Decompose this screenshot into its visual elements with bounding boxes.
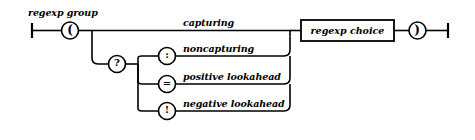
equals-icon: = [157,78,177,88]
question-mark-icon: ? [107,58,127,68]
track-start-icon [32,23,62,38]
exclamation-icon: ! [157,105,177,115]
branch-label-positive-lookahead: positive lookahead [183,72,281,82]
branch-label-noncapturing: noncapturing [183,44,254,54]
branch-label-negative-lookahead: negative lookahead [183,99,285,109]
railroad-track-graphic [0,0,475,140]
track-to-colon [138,56,158,58]
nonterminal-label-regexp-choice: regexp choice [301,26,394,36]
railroad-diagram: regexp group [0,0,475,140]
close-paren-icon: ) [407,24,427,36]
colon-icon: : [157,50,177,60]
branch-label-capturing: capturing [183,18,234,28]
track-end-icon [426,23,448,38]
track-to-equals [138,64,158,84]
track-drop-to-question [92,31,108,65]
open-paren-icon: ( [60,24,80,36]
track-merge-joint [286,31,290,37]
track-to-bang [138,64,158,111]
